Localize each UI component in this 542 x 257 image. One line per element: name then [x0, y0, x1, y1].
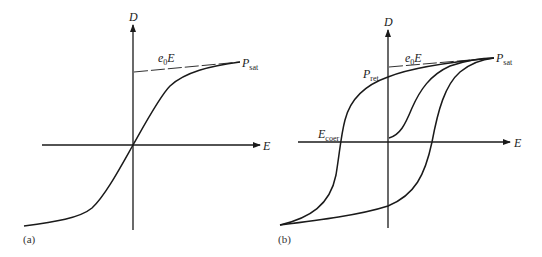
- figure: D E e0E Psat (a) D E e0E Psat Pret Ecoer…: [0, 0, 542, 257]
- panel-b-tag: (b): [278, 233, 291, 246]
- panel-a-e0E-label: e0E: [158, 51, 175, 67]
- panel-a: D E e0E Psat (a): [23, 10, 271, 246]
- panel-a-e0E-line: [134, 62, 240, 72]
- panel-b-e0E-label: e0E: [405, 51, 422, 67]
- panel-b-psat-label: Psat: [495, 51, 513, 67]
- panel-a-x-label: E: [262, 139, 271, 153]
- panel-a-tag: (a): [23, 233, 36, 246]
- panel-b-initial-curve: [389, 58, 494, 138]
- panel-b: D E e0E Psat Pret Ecoer (b): [278, 15, 522, 246]
- panel-b-pret-label: Pret: [362, 67, 380, 83]
- panel-a-y-label: D: [128, 10, 138, 24]
- panel-a-psat-label: Psat: [241, 56, 259, 72]
- panel-b-y-label: D: [383, 15, 393, 29]
- panel-b-ecoer-label: Ecoer: [317, 127, 339, 143]
- panel-b-x-label: E: [513, 136, 522, 150]
- panel-a-polarization-curve: [24, 62, 240, 226]
